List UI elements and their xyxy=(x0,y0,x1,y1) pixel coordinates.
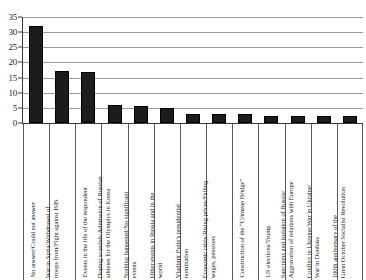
x-axis-label-line: Events in the life of the respondent xyxy=(81,188,89,279)
x-axis-labels: No answer/Could not answerWar in Syria/W… xyxy=(23,124,363,280)
x-axis-label-slot: War in Syria/Withdrawal oftroops from/Fi… xyxy=(49,124,75,280)
x-axis-label-slot: Construction of the “Crimean Bridge” xyxy=(232,124,258,280)
y-axis-tick-label: 0 xyxy=(13,119,17,128)
bars-layer xyxy=(23,17,363,123)
bar[interactable] xyxy=(186,114,200,123)
x-axis-label: Vladimir Putin's presidentialnomination xyxy=(174,204,189,278)
bar-slot xyxy=(49,17,75,123)
y-axis-tick-label: 35 xyxy=(8,13,17,22)
bar-slot xyxy=(337,17,363,123)
bar[interactable] xyxy=(29,26,43,123)
bar-slot xyxy=(154,17,180,123)
x-axis-label-line: nomination xyxy=(182,204,190,278)
x-axis-label-line: world xyxy=(156,192,164,278)
bar-slot xyxy=(128,17,154,123)
x-axis-label: Events in the life of the respondent xyxy=(81,188,89,279)
x-axis-label-slot: 100th anniversary of theGreat October So… xyxy=(337,124,363,280)
x-axis-label-line: Construction of the “Crimean Bridge” xyxy=(238,179,246,278)
x-axis-label: War in Syria/Withdrawal oftroops from/Fi… xyxy=(44,199,59,278)
x-axis-label-slot: Economic crisis/Rising prices/Fallingwag… xyxy=(206,124,232,280)
bar[interactable] xyxy=(160,108,174,123)
x-axis-label-line: Doping scandals/Admission of Russian xyxy=(96,176,104,278)
bar[interactable] xyxy=(55,71,69,123)
y-axis: 05101520253035 xyxy=(0,12,22,124)
y-axis-tick-label: 20 xyxy=(8,58,17,67)
x-axis-label-line: Economic crisis/Rising prices/Falling xyxy=(200,181,208,278)
x-axis-label-line: troops from/Fight against ISIS xyxy=(51,199,59,278)
y-axis-tick-label: 10 xyxy=(8,88,17,97)
bar[interactable] xyxy=(134,106,148,123)
bar-slot xyxy=(285,17,311,123)
plot-area xyxy=(22,17,363,124)
x-axis-label-line: No answer/Could not answer xyxy=(29,203,37,278)
bar[interactable] xyxy=(108,105,122,123)
bar[interactable] xyxy=(317,116,331,123)
bar-slot xyxy=(232,17,258,123)
y-axis-tick-label: 15 xyxy=(8,73,17,82)
x-axis-label: Conflict in Ukraine/War in Ukraine/War i… xyxy=(305,184,320,278)
x-axis-label-line: War in Donbass xyxy=(313,184,321,278)
bar-slot xyxy=(311,17,337,123)
x-axis-label-line: US elections/Trump xyxy=(264,226,272,278)
bar[interactable] xyxy=(81,72,95,123)
bar[interactable] xyxy=(264,116,278,123)
y-axis-tick-label: 25 xyxy=(8,43,17,52)
bar[interactable] xyxy=(238,114,252,123)
bar[interactable] xyxy=(212,114,226,123)
x-axis-label-line: Nothing happened/No significant xyxy=(122,192,130,278)
x-axis-label: Economic crisis/Rising prices/Fallingwag… xyxy=(200,181,215,278)
x-axis-label-line: wages, pensions xyxy=(208,181,216,278)
bar-slot xyxy=(258,17,284,123)
bar[interactable] xyxy=(343,116,357,123)
x-axis-label: Doping scandals/Admission of Russianathl… xyxy=(96,176,111,278)
x-axis-label: Nothing happened/No significantevents xyxy=(122,192,137,278)
x-axis-label-line: Vladimir Putin's presidential xyxy=(174,204,182,278)
x-axis-label-line: Aggravation of relations with Europe xyxy=(287,181,295,278)
bar-slot xyxy=(101,17,127,123)
x-axis-label-line: Great October Socialist Revolution xyxy=(339,187,347,278)
bar-slot xyxy=(75,17,101,123)
bar-chart-figure: 05101520253035 No answer/Could not answe… xyxy=(0,0,366,280)
x-axis-label: Sanctions and isolation of Russia/Aggrav… xyxy=(279,181,294,278)
x-axis-label: Other events in Russia and in theworld xyxy=(148,192,163,278)
x-axis-label-line: Other events in Russia and in the xyxy=(148,192,156,278)
x-axis-label-line: War in Syria/Withdrawal of xyxy=(44,199,52,278)
x-axis-label-line: events xyxy=(130,192,138,278)
bar-slot xyxy=(23,17,49,123)
x-axis-label: US elections/Trump xyxy=(264,226,272,278)
y-axis-tick-label: 30 xyxy=(8,28,17,37)
bar-slot xyxy=(180,17,206,123)
x-axis-label-line: athletes for the Olympics in Korea xyxy=(103,176,111,278)
x-axis-label: Construction of the “Crimean Bridge” xyxy=(238,179,246,278)
x-axis-label: No answer/Could not answer xyxy=(29,203,37,278)
x-axis-label-line: Conflict in Ukraine/War in Ukraine/ xyxy=(305,184,313,278)
x-axis-label: 100th anniversary of theGreat October So… xyxy=(331,187,346,278)
y-axis-tick-label: 5 xyxy=(13,103,17,112)
x-axis-label-line: Sanctions and isolation of Russia/ xyxy=(279,181,287,278)
bar[interactable] xyxy=(291,116,305,123)
bar-slot xyxy=(206,17,232,123)
